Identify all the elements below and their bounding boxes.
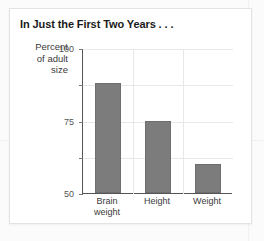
x-axis-label-weight: Weight [182,196,232,207]
y-tick-mark-0: 0 [79,194,83,195]
y-tick-mark-75: 75 [79,85,83,86]
gridline-y-100 [83,49,233,50]
gridline-x-1 [133,49,134,194]
y-tick-mark-100: 100 [79,49,83,50]
plot-wrapper: 0255075100 BrainweightHeightWeight [72,47,234,202]
x-axis-label-brain-weight: Brainweight [82,196,132,217]
y-tick-label-50: 50 [64,189,74,199]
x-axis-label-height: Height [132,196,182,207]
chart-card: In Just the First Two Years . . . Percen… [9,8,252,224]
plot-area: 0255075100 [82,49,232,194]
gridline-x-2 [183,49,184,194]
y-axis-title-line-2: of adult [16,53,68,65]
y-axis-title-line-3: size [16,64,68,76]
x-axis-label-line-1: Brain [82,196,132,207]
bar-weight [195,164,221,193]
y-tick-label-100: 100 [59,44,74,54]
x-axis-label-line-1: Weight [182,196,232,207]
page-title: In Just the First Two Years . . . [20,18,173,30]
x-axis-label-line-2: weight [82,207,132,218]
x-axis-label-line-1: Height [132,196,182,207]
y-tick-mark-25: 25 [79,158,83,159]
bar-height [145,121,171,194]
y-tick-label-75: 75 [64,117,74,127]
bar-brain-weight [95,83,121,193]
y-tick-mark-50: 50 [79,122,83,123]
